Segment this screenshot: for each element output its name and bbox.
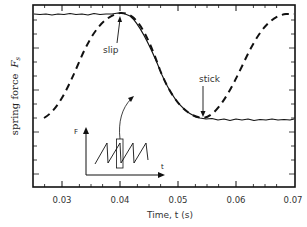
plot-frame: [33, 5, 295, 187]
inset-f-arrowhead: [83, 127, 89, 134]
annotation-stick: stick: [199, 74, 221, 84]
x-tick-label: 0.03: [53, 195, 72, 205]
inset-t-arrowhead: [158, 172, 165, 178]
slip-arrow-head: [118, 16, 123, 22]
inset-zoom-arrow: [119, 99, 131, 139]
x-minor-ticks: [45, 5, 277, 187]
stick-slip-chart: slip stick F t 0.03 0.04 0.05 0.06 0.07 …: [0, 0, 307, 227]
annotation-slip: slip: [103, 45, 119, 55]
inset-sawtooth: F t: [74, 96, 165, 178]
stick-arrow-head: [201, 111, 206, 117]
y-axis-title-text: spring force: [9, 74, 20, 136]
svg-text:spring force Fs: spring force Fs: [9, 56, 22, 135]
x-tick-label: 0.04: [111, 195, 130, 205]
model-force-dashed: [44, 13, 294, 118]
x-tick-label: 0.05: [169, 195, 188, 205]
measured-force-line: [34, 13, 294, 121]
y-axis-subscript: s: [14, 56, 22, 60]
slip-arrow: [117, 19, 120, 43]
x-major-ticks: [62, 5, 236, 187]
inset-f-label: F: [74, 128, 78, 136]
x-tick-label: 0.07: [284, 195, 303, 205]
x-tick-label: 0.06: [227, 195, 246, 205]
y-axis-title: spring force Fs: [9, 56, 22, 135]
x-axis-title: Time, t (s): [146, 210, 193, 220]
y-ticks: [33, 20, 295, 174]
inset-sawtooth-line: [95, 143, 148, 164]
inset-t-label: t: [161, 163, 164, 171]
